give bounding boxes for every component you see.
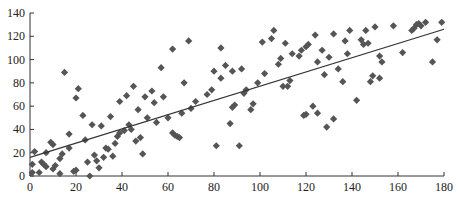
diamond-marker (36, 169, 43, 176)
diamond-marker (112, 140, 119, 147)
diamond-marker (66, 130, 73, 137)
diamond-marker (371, 23, 378, 30)
y-tick-label: 120 (7, 29, 25, 43)
diamond-marker (434, 36, 441, 43)
diamond-marker (130, 83, 137, 90)
diamond-marker (185, 37, 192, 44)
diamond-marker (268, 35, 275, 42)
x-tick-label: 60 (162, 180, 174, 194)
diamond-marker (31, 148, 38, 155)
data-points (29, 19, 446, 180)
x-tick-label: 20 (70, 180, 82, 194)
diamond-marker (98, 122, 105, 129)
scatter-chart: 0204060801001201400204060801001201401601… (0, 0, 459, 201)
diamond-marker (330, 115, 337, 122)
diamond-marker (148, 87, 155, 94)
y-tick-label: 80 (13, 76, 25, 90)
diamond-marker (339, 78, 346, 85)
diamond-marker (323, 124, 330, 131)
x-tick-label: 80 (208, 180, 220, 194)
diamond-marker (89, 121, 96, 128)
y-tick-label: 60 (13, 99, 25, 113)
diamond-marker (123, 92, 130, 99)
diamond-marker (429, 58, 436, 65)
diamond-marker (390, 22, 397, 29)
axes: 0204060801001201400204060801001201401601… (7, 6, 453, 194)
diamond-marker (314, 58, 321, 65)
diamond-marker (335, 65, 342, 72)
diamond-marker (362, 27, 369, 34)
diamond-marker (376, 75, 383, 82)
x-tick-label: 120 (297, 180, 315, 194)
diamond-marker (346, 27, 353, 34)
diamond-marker (192, 98, 199, 105)
diamond-marker (84, 158, 91, 165)
diamond-marker (222, 62, 229, 69)
y-tick-label: 100 (7, 53, 25, 67)
diamond-marker (282, 40, 289, 47)
diamond-marker (321, 71, 328, 78)
diamond-marker (254, 79, 261, 86)
y-tick-label: 140 (7, 6, 25, 20)
diamond-marker (61, 69, 68, 76)
diamond-marker (319, 47, 326, 54)
diamond-marker (158, 64, 165, 71)
diamond-marker (213, 142, 220, 149)
diamond-marker (309, 103, 316, 110)
x-tick-label: 40 (116, 180, 128, 194)
diamond-marker (208, 86, 215, 93)
diamond-marker (330, 30, 337, 37)
diamond-marker (289, 50, 296, 57)
diamond-marker (151, 99, 158, 106)
trendline (30, 29, 444, 157)
diamond-marker (270, 27, 277, 34)
diamond-marker (181, 79, 188, 86)
diamond-marker (238, 65, 245, 72)
x-tick-label: 180 (435, 180, 453, 194)
diamond-marker (116, 98, 123, 105)
x-tick-label: 140 (343, 180, 361, 194)
diamond-marker (109, 153, 116, 160)
y-tick-label: 0 (19, 169, 25, 183)
diamond-marker (153, 119, 160, 126)
diamond-marker (204, 91, 211, 98)
diamond-marker (139, 150, 146, 157)
y-tick-label: 20 (13, 146, 25, 160)
diamond-marker (261, 70, 268, 77)
diamond-marker (86, 172, 93, 179)
diamond-marker (344, 50, 351, 57)
x-tick-label: 160 (389, 180, 407, 194)
x-tick-label: 0 (27, 180, 33, 194)
diamond-marker (141, 93, 148, 100)
diamond-marker (236, 142, 243, 149)
regression-line (30, 29, 444, 157)
diamond-marker (160, 93, 167, 100)
chart-canvas: 0204060801001201400204060801001201401601… (0, 0, 459, 201)
diamond-marker (229, 68, 236, 75)
diamond-marker (210, 68, 217, 75)
diamond-marker (259, 39, 266, 46)
diamond-marker (107, 113, 114, 120)
diamond-marker (72, 94, 79, 101)
diamond-marker (75, 85, 82, 92)
diamond-marker (353, 97, 360, 104)
diamond-marker (342, 37, 349, 44)
diamond-marker (95, 164, 102, 171)
diamond-marker (169, 45, 176, 52)
diamond-marker (100, 154, 107, 161)
diamond-marker (314, 110, 321, 117)
diamond-marker (399, 49, 406, 56)
diamond-marker (135, 106, 142, 113)
diamond-marker (438, 19, 445, 26)
x-tick-label: 100 (251, 180, 269, 194)
y-tick-label: 40 (13, 122, 25, 136)
diamond-marker (79, 112, 86, 119)
diamond-marker (217, 44, 224, 51)
diamond-marker (325, 54, 332, 61)
diamond-marker (227, 120, 234, 127)
diamond-marker (312, 32, 319, 39)
diamond-marker (217, 75, 224, 82)
